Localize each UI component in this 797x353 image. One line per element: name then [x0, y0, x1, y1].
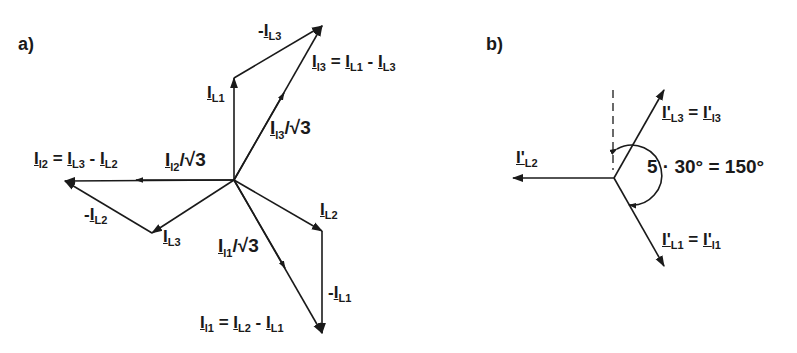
I-prime-symbol: I': [662, 230, 671, 249]
equals: =: [214, 313, 233, 332]
equals: =: [48, 149, 67, 168]
subscript: L1: [271, 322, 284, 334]
vector-I-L2: [234, 180, 322, 231]
panel-a-label: a): [18, 35, 34, 53]
subscript: L2: [238, 322, 251, 334]
subscript: L3: [383, 61, 396, 73]
over-sqrt3: /√3: [284, 117, 310, 138]
subscript: l1: [712, 239, 721, 251]
I-prime-symbol: I': [662, 103, 671, 122]
subscript: L3: [671, 112, 684, 124]
I-prime-symbol: I': [516, 148, 525, 167]
label-I-l2-equation: Il2 = IL3 - IL2: [34, 150, 118, 170]
over-sqrt3: /√3: [179, 149, 205, 170]
subscript: L3: [72, 158, 85, 170]
minus-sign: -: [368, 52, 374, 71]
label-I-L3: IL3: [163, 228, 181, 248]
minus-sign: -: [256, 313, 262, 332]
label-minus-I-L2: -IL2: [84, 206, 107, 226]
subscript: L1: [212, 92, 225, 104]
label-minus-I-L1: -IL1: [328, 284, 351, 304]
subscript: L3: [268, 30, 281, 42]
minus-sign: -: [90, 149, 96, 168]
label-minus-I-L3: -IL3: [258, 22, 281, 42]
label-I-l1-equation: Il1 = IL2 - IL1: [200, 314, 284, 334]
label-I-l2-over-sqrt3: Il2/√3: [165, 150, 206, 173]
label-I-l1-over-sqrt3: Il1/√3: [218, 236, 259, 259]
subscript: L3: [168, 236, 181, 248]
subscript: L1: [350, 61, 363, 73]
panel-b-label: b): [486, 35, 503, 53]
label-I-l3-equation: Il3 = IL1 - IL3: [312, 53, 396, 73]
panel-b-vectors: [513, 90, 664, 266]
vector-minus-I-L2: [65, 181, 152, 233]
subscript: l1: [205, 322, 214, 334]
label-I-prime-L3-equation: I'L3 = I'l3: [662, 104, 721, 124]
subscript: l2: [39, 158, 48, 170]
subscript: L2: [94, 214, 107, 226]
subscript: L2: [525, 157, 538, 169]
I-prime-symbol: I': [703, 230, 712, 249]
equals: =: [684, 230, 703, 249]
label-I-prime-L2: I'L2: [516, 149, 538, 169]
I-prime-symbol: I': [703, 103, 712, 122]
subscript: L1: [671, 239, 684, 251]
vector-I-L3: [152, 180, 234, 233]
subscript: L1: [338, 292, 351, 304]
label-I-L2: IL2: [320, 201, 338, 221]
subscript: L2: [325, 209, 338, 221]
over-sqrt3: /√3: [232, 235, 258, 256]
equals: =: [684, 103, 703, 122]
angle-label: 5 · 30° = 150°: [647, 157, 764, 176]
label-I-l3-over-sqrt3: Il3/√3: [270, 118, 311, 141]
subscript: l3: [317, 61, 326, 73]
label-I-prime-L1-equation: I'L1 = I'l1: [662, 231, 721, 251]
panel-a-vectors: [65, 26, 322, 333]
subscript: L2: [105, 158, 118, 170]
subscript: l3: [712, 112, 721, 124]
equals: =: [326, 52, 345, 71]
label-I-L1: IL1: [207, 84, 225, 104]
